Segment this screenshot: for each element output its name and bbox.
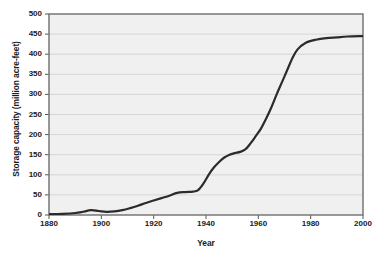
- x-axis-tick-labels: 1880190019201940196019802000: [0, 220, 381, 234]
- y-tick-label: 0: [16, 211, 42, 219]
- x-tick-label: 2000: [343, 220, 381, 228]
- chart-figure: 050100150200250300350400450500 188019001…: [0, 0, 381, 257]
- x-tick-label: 1940: [186, 220, 226, 228]
- x-tick-label: 1920: [134, 220, 174, 228]
- x-tick-label: 1880: [29, 220, 69, 228]
- x-tick-label: 1900: [81, 220, 121, 228]
- x-axis-title: Year: [49, 238, 363, 248]
- x-tick-label: 1960: [238, 220, 278, 228]
- y-axis-title: Storage capacity (million acre-feet): [11, 9, 21, 209]
- x-tick-label: 1980: [291, 220, 331, 228]
